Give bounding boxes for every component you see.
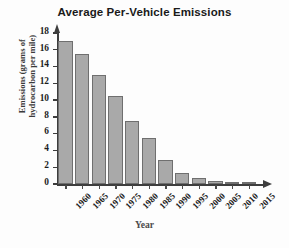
x-tick bbox=[199, 185, 200, 189]
x-tick bbox=[182, 185, 183, 189]
bar bbox=[142, 138, 156, 184]
y-tick: 10 bbox=[53, 99, 58, 100]
x-tick-label: 1990 bbox=[174, 191, 194, 211]
x-axis-label: Year bbox=[0, 219, 289, 230]
x-tick-label: 1975 bbox=[124, 191, 144, 211]
x-tick-label: 1965 bbox=[90, 191, 110, 211]
x-tick-label: 2015 bbox=[257, 191, 277, 211]
y-tick-label: 0 bbox=[44, 177, 49, 187]
x-tick bbox=[65, 185, 66, 189]
y-tick-label: 16 bbox=[40, 43, 49, 53]
y-tick-label: 18 bbox=[40, 26, 49, 36]
bar bbox=[158, 160, 172, 184]
x-tick-label: 2005 bbox=[224, 191, 244, 211]
bar bbox=[208, 181, 222, 184]
x-tick-label: 2000 bbox=[207, 191, 227, 211]
bar bbox=[75, 54, 89, 184]
y-axis-label-line-2: hydrocarbon per mile) bbox=[27, 1, 37, 151]
y-tick: 4 bbox=[53, 150, 58, 151]
bar bbox=[225, 182, 239, 184]
y-tick: 6 bbox=[53, 133, 58, 134]
y-tick: 16 bbox=[53, 49, 58, 50]
y-tick: 0 bbox=[53, 183, 58, 184]
y-axis-label: Emissions (grams of hydrocarbon per mile… bbox=[17, 1, 37, 151]
x-tick-label: 1980 bbox=[140, 191, 160, 211]
bar bbox=[192, 178, 206, 184]
bar bbox=[92, 75, 106, 184]
y-tick-label: 14 bbox=[40, 59, 49, 69]
y-tick: 2 bbox=[53, 167, 58, 168]
y-tick-label: 10 bbox=[40, 93, 49, 103]
y-tick-label: 8 bbox=[44, 110, 49, 120]
chart-figure: Average Per-Vehicle Emissions Emissions … bbox=[0, 0, 289, 248]
x-tick-label: 1995 bbox=[190, 191, 210, 211]
x-tick-label: 1985 bbox=[157, 191, 177, 211]
y-tick-label: 12 bbox=[40, 76, 49, 86]
chart-title: Average Per-Vehicle Emissions bbox=[0, 6, 289, 18]
x-tick bbox=[149, 185, 150, 189]
x-axis-arrowhead-icon bbox=[263, 180, 272, 188]
x-tick bbox=[249, 185, 250, 189]
bar bbox=[125, 121, 139, 184]
x-tick bbox=[215, 185, 216, 189]
x-tick bbox=[132, 185, 133, 189]
bar bbox=[242, 182, 256, 184]
x-tick bbox=[232, 185, 233, 189]
x-tick bbox=[115, 185, 116, 189]
x-tick-label: 1970 bbox=[107, 191, 127, 211]
y-tick: 12 bbox=[53, 83, 58, 84]
x-tick-label: 1960 bbox=[74, 191, 94, 211]
y-tick: 14 bbox=[53, 66, 58, 67]
bar bbox=[108, 96, 122, 184]
x-tick-label: 2010 bbox=[240, 191, 260, 211]
plot-area: 024681012141618 196019651970197519801985… bbox=[57, 33, 257, 185]
x-tick bbox=[82, 185, 83, 189]
bar bbox=[175, 173, 189, 184]
y-tick-label: 2 bbox=[44, 160, 49, 170]
y-tick: 18 bbox=[53, 32, 58, 33]
bar bbox=[58, 41, 72, 184]
y-tick: 8 bbox=[53, 116, 58, 117]
x-tick bbox=[99, 185, 100, 189]
y-tick-label: 6 bbox=[44, 126, 49, 136]
x-tick bbox=[165, 185, 166, 189]
y-tick-label: 4 bbox=[44, 143, 49, 153]
y-axis-label-line-1: Emissions (grams of bbox=[17, 1, 27, 151]
